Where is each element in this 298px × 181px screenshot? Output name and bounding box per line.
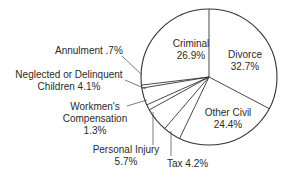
label-divorce-name: Divorce xyxy=(215,49,275,61)
label-neglected-children: Neglected or Delinquent Children 4.1% xyxy=(10,69,128,93)
label-annulment: Annulment .7% xyxy=(55,45,123,57)
label-neglected-line2: Children 4.1% xyxy=(10,81,128,93)
label-personal-injury: Personal Injury 5.7% xyxy=(90,144,162,168)
label-personal-injury-name: Personal Injury xyxy=(90,144,162,156)
label-workmens-line2: Compensation xyxy=(60,113,130,125)
label-divorce-value: 32.7% xyxy=(215,61,275,73)
label-tax: Tax 4.2% xyxy=(167,158,208,170)
label-workmens-line1: Workmen's xyxy=(60,101,130,113)
label-other-civil-value: 24.4% xyxy=(193,119,263,131)
label-workmens-compensation: Workmen's Compensation 1.3% xyxy=(60,101,130,137)
label-other-civil-name: Other Civil xyxy=(193,107,263,119)
label-other-civil: Other Civil 24.4% xyxy=(193,107,263,131)
leader-workmens xyxy=(127,100,147,106)
label-neglected-line1: Neglected or Delinquent xyxy=(10,69,128,81)
label-personal-injury-value: 5.7% xyxy=(90,156,162,168)
label-workmens-value: 1.3% xyxy=(60,125,130,137)
label-divorce: Divorce 32.7% xyxy=(215,49,275,73)
